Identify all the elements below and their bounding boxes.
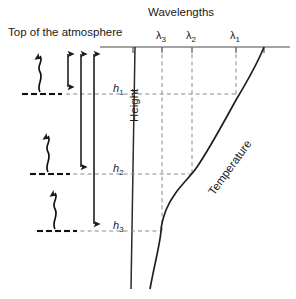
depth-arrows (68, 54, 94, 224)
lambda2-label: λ2 (186, 29, 196, 42)
emission-source-2 (30, 136, 70, 174)
emission-source-3 (37, 193, 77, 231)
chart-title: Wavelengths (148, 6, 214, 20)
lambda3-label: λ3 (156, 29, 166, 42)
top-of-atmosphere-label: Top of the atmosphere (8, 26, 100, 40)
wavy-emission-arrow-1 (39, 56, 41, 92)
h1-label: h1 (113, 82, 124, 95)
height-axis-line (131, 47, 135, 289)
lambda1-label: λ1 (230, 29, 240, 42)
temperature-curve (150, 47, 264, 289)
wavy-emission-arrow-2 (47, 136, 49, 172)
h3-label: h3 (113, 219, 124, 232)
atmospheric-sounding-diagram: Wavelengths Top of the atmosphere λ3 λ2 … (0, 0, 296, 299)
wavelength-guide-lines (162, 47, 236, 231)
emission-source-1 (22, 56, 62, 94)
wavelength-tick-marks (133, 47, 264, 53)
height-guide-lines (66, 94, 236, 231)
wavy-emission-arrow-3 (54, 193, 56, 229)
h2-label: h2 (113, 162, 124, 175)
height-axis-label: Height (128, 89, 142, 122)
